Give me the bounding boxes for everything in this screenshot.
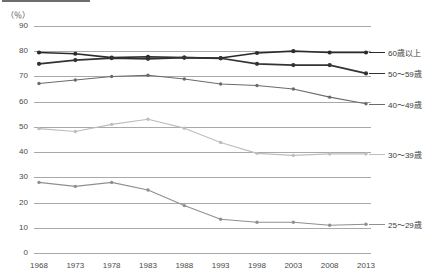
x-tick-label: 1993 [206, 261, 236, 270]
data-point [146, 118, 149, 121]
y-tick-label: 70 [2, 71, 28, 80]
y-tick-label: 90 [2, 21, 28, 30]
legend-connector-4 [369, 224, 385, 225]
data-point [37, 82, 40, 85]
y-tick-label: 10 [2, 223, 28, 232]
legend-connector-2 [369, 104, 385, 105]
data-point [183, 126, 186, 129]
data-point [255, 221, 258, 224]
y-tick-label: 30 [2, 172, 28, 181]
legend-connector-1 [369, 73, 385, 74]
legend-label-4: 25〜29歳 [388, 219, 422, 230]
data-point [291, 63, 295, 67]
plot-area [34, 26, 371, 253]
y-tick-label: 80 [2, 46, 28, 55]
data-point [182, 55, 186, 59]
data-point [364, 152, 367, 155]
data-point [292, 154, 295, 157]
data-point [328, 63, 332, 67]
x-tick-label: 1978 [97, 261, 127, 270]
data-point [183, 204, 186, 207]
y-tick-label: 60 [2, 97, 28, 106]
data-point [219, 141, 222, 144]
x-tick-label: 1968 [24, 261, 54, 270]
x-tick-label: 2003 [278, 261, 308, 270]
series-line-4 [39, 182, 366, 225]
data-point [364, 102, 367, 105]
data-point [328, 50, 332, 54]
data-point [74, 78, 77, 81]
x-tick-label: 1988 [169, 261, 199, 270]
data-point [364, 223, 367, 226]
data-point [110, 75, 113, 78]
x-tick-label: 1998 [242, 261, 272, 270]
legend-connector-3 [369, 154, 385, 155]
y-tick-label: 20 [2, 198, 28, 207]
data-point [292, 87, 295, 90]
data-point [110, 123, 113, 126]
data-point [146, 188, 149, 191]
x-tick-label: 1973 [60, 261, 90, 270]
data-point [37, 62, 41, 66]
data-point [328, 224, 331, 227]
data-point [255, 62, 259, 66]
data-point [146, 57, 150, 61]
data-point [255, 84, 258, 87]
data-point [73, 58, 77, 62]
line-chart: （％） 9080706050403020100 1968197319781983… [0, 0, 431, 280]
data-point [74, 130, 77, 133]
x-tick-label: 1983 [133, 261, 163, 270]
data-point [183, 77, 186, 80]
data-point [37, 127, 40, 130]
data-point [255, 51, 259, 55]
data-point [328, 95, 331, 98]
data-point [219, 218, 222, 221]
series-line-3 [39, 119, 366, 155]
data-point [146, 73, 149, 76]
series-line-0 [39, 51, 366, 58]
data-point [364, 50, 368, 54]
data-point [292, 221, 295, 224]
legend-label-0: 60歳以上 [388, 47, 421, 58]
data-point [328, 152, 331, 155]
y-tick-label: 0 [2, 248, 28, 257]
legend-label-1: 50〜59歳 [388, 68, 422, 79]
data-point [255, 152, 258, 155]
data-point [73, 52, 77, 56]
data-point [110, 56, 114, 60]
series-lines [34, 26, 371, 253]
legend-connector-0 [369, 52, 385, 53]
x-tick-label: 2008 [315, 261, 345, 270]
data-point [37, 181, 40, 184]
legend-label-2: 40〜49歳 [388, 99, 422, 110]
series-line-2 [39, 75, 366, 104]
chart-title-cutoff [2, 0, 90, 2]
data-point [364, 71, 368, 75]
data-point [291, 49, 295, 53]
data-point [219, 56, 223, 60]
y-tick-label: 50 [2, 122, 28, 131]
y-axis-unit-label: （％） [6, 9, 30, 20]
series-line-1 [39, 58, 366, 74]
data-point [110, 181, 113, 184]
gridline-0 [34, 253, 371, 254]
legend-label-3: 30〜39歳 [388, 149, 422, 160]
data-point [219, 82, 222, 85]
data-point [37, 50, 41, 54]
y-tick-label: 40 [2, 147, 28, 156]
x-tick-label: 2013 [351, 261, 381, 270]
data-point [74, 185, 77, 188]
